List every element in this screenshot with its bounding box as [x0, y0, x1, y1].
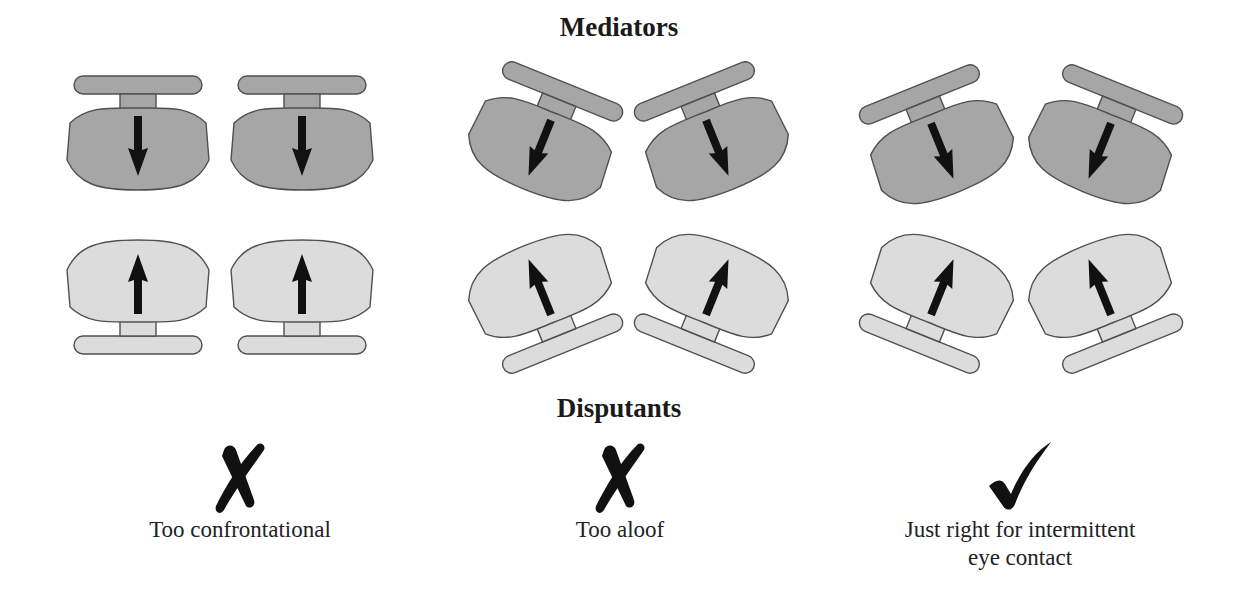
verdict-aloof: Too aloof [520, 440, 720, 544]
verdict-confrontational: Too confrontational [100, 440, 380, 544]
verdict-caption: Too aloof [520, 516, 720, 544]
disputant-chair [231, 240, 373, 354]
cross-mark-icon [210, 440, 270, 516]
chair-connector [284, 94, 320, 109]
verdict-intermittent: Just right for intermittent eye contact [860, 440, 1180, 572]
arrangement-intermittent [850, 59, 1192, 378]
disputant-chair [457, 220, 631, 379]
arrangement-aloof [457, 56, 799, 378]
chair-backrest [238, 76, 366, 94]
chair-backrest [238, 336, 366, 354]
chairs-layer [67, 56, 1192, 378]
verdict-caption: Too confrontational [100, 516, 380, 544]
arrangement-confrontational [67, 76, 373, 354]
mediator-chair [1017, 59, 1191, 218]
disputant-chair [1017, 220, 1191, 379]
mediator-chair [231, 76, 373, 190]
disputant-chair [67, 240, 209, 354]
verdict-caption: Just right for intermittent eye contact [860, 516, 1180, 572]
disputant-chair [850, 220, 1024, 379]
check-mark-icon [985, 440, 1055, 516]
mediator-chair [67, 76, 209, 190]
chair-backrest [74, 76, 202, 94]
mediator-chair [457, 56, 631, 215]
chair-connector [120, 321, 156, 336]
mediator-chair [625, 56, 799, 215]
cross-mark-icon [590, 440, 650, 516]
chair-backrest [74, 336, 202, 354]
disputant-chair [625, 220, 799, 379]
chair-connector [284, 321, 320, 336]
mediator-chair [850, 59, 1024, 218]
chair-connector [120, 94, 156, 109]
